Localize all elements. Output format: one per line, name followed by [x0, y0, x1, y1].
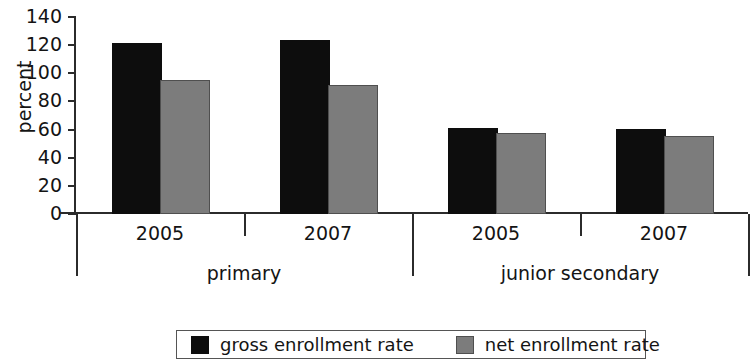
legend-label-net: net enrollment rate [485, 334, 660, 355]
chart-legend: gross enrollment rate net enrollment rat… [176, 330, 646, 359]
y-tick-label: 140 [16, 7, 62, 26]
category-separator [580, 214, 582, 236]
bar-net-0 [160, 80, 210, 214]
x-category-label: 2005 [76, 222, 244, 244]
legend-label-gross: gross enrollment rate [220, 334, 414, 355]
y-tick-label: 40 [16, 148, 62, 167]
legend-swatch-icon-net [456, 336, 474, 354]
bar-gross-0 [112, 43, 162, 214]
y-tick-label: 80 [16, 91, 62, 110]
bar-gross-3 [616, 129, 666, 214]
bar-gross-2 [448, 128, 498, 214]
legend-item-net-enrollment-rate: net enrollment rate [456, 331, 660, 358]
x-group-label: junior secondary [412, 262, 748, 284]
bar-net-2 [496, 133, 546, 214]
plot-area [76, 17, 748, 214]
bar-net-1 [328, 85, 378, 214]
x-category-label: 2007 [244, 222, 412, 244]
category-separator [244, 214, 246, 236]
y-tick-label: 20 [16, 176, 62, 195]
bar-net-3 [664, 136, 714, 214]
x-category-label: 2007 [580, 222, 748, 244]
y-tick-label: 60 [16, 120, 62, 139]
bar-gross-1 [280, 40, 330, 214]
y-tick-label: 0 [16, 204, 62, 223]
legend-swatch-icon-gross [191, 336, 209, 354]
legend-item-gross-enrollment-rate: gross enrollment rate [191, 331, 414, 358]
x-category-label: 2005 [412, 222, 580, 244]
x-group-label: primary [76, 262, 412, 284]
y-axis-ticks: 020406080100120140 [0, 0, 62, 360]
y-tick-label: 100 [16, 63, 62, 82]
y-tick-label: 120 [16, 35, 62, 54]
